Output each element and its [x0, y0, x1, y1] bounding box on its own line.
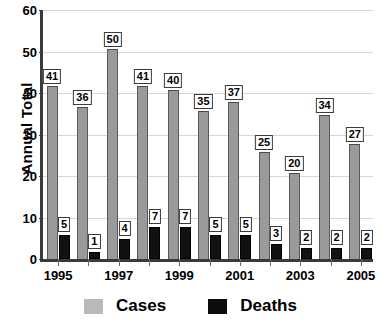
legend-label: Cases [116, 296, 166, 316]
bar-deaths: 5 [59, 235, 70, 259]
bar-deaths: 2 [301, 248, 312, 259]
bar-deaths: 3 [271, 244, 282, 259]
bar-cases: 35 [198, 111, 209, 259]
bar-cases: 27 [349, 144, 360, 259]
x-tick-mark [300, 259, 301, 266]
y-tick-label: 20 [23, 169, 37, 184]
y-tick-label: 40 [23, 86, 37, 101]
bar-cases: 20 [289, 173, 300, 259]
bar-group: 407 [164, 10, 194, 259]
bar-value-label: 41 [43, 69, 61, 84]
bar-value-label: 2 [300, 230, 312, 245]
x-tick-label: 1995 [44, 268, 73, 283]
x-tick-label: 1997 [104, 268, 133, 283]
bar-value-label: 25 [255, 135, 273, 150]
legend-item: Cases [84, 296, 166, 316]
bar-chart: Annual Total 010203040506041519953615041… [0, 0, 381, 333]
bar-group: 272 [346, 10, 376, 259]
x-tick-mark [210, 259, 211, 266]
x-tick-label: 1999 [165, 268, 194, 283]
y-tick-label: 0 [30, 252, 37, 267]
bar-group: 375 [225, 10, 255, 259]
bar-deaths: 5 [210, 235, 221, 259]
bar-deaths: 1 [89, 252, 100, 259]
bar-group: 355 [194, 10, 224, 259]
bar-value-label: 35 [194, 94, 212, 109]
x-tick-label: 2005 [346, 268, 375, 283]
bar-group: 361 [73, 10, 103, 259]
bar-value-label: 40 [164, 73, 182, 88]
bar-deaths: 2 [361, 248, 372, 259]
bar-deaths: 2 [331, 248, 342, 259]
bar-value-label: 50 [104, 32, 122, 47]
x-tick-label: 2001 [225, 268, 254, 283]
bar-deaths: 7 [149, 227, 160, 259]
bar-value-label: 27 [346, 127, 364, 142]
y-tick-label: 60 [23, 3, 37, 18]
cases-swatch [84, 299, 103, 314]
bar-cases: 40 [168, 90, 179, 259]
chart-legend: CasesDeaths [0, 296, 381, 316]
bar-value-label: 34 [315, 98, 333, 113]
bar-value-label: 4 [119, 221, 131, 236]
plot-area: 0102030405060415199536150419974174071999… [40, 10, 373, 262]
bar-deaths: 4 [119, 239, 130, 259]
bar-value-label: 5 [209, 217, 221, 232]
bar-cases: 36 [77, 107, 88, 259]
bar-value-label: 3 [270, 226, 282, 241]
bar-deaths: 7 [180, 227, 191, 259]
x-tick-mark [270, 259, 271, 266]
bar-deaths: 5 [240, 235, 251, 259]
bar-cases: 50 [107, 49, 118, 260]
x-tick-mark [179, 259, 180, 266]
legend-label: Deaths [240, 296, 297, 316]
bar-group: 342 [315, 10, 345, 259]
x-tick-mark [240, 259, 241, 266]
bar-group: 504 [104, 10, 134, 259]
y-tick-mark [39, 259, 43, 260]
bar-value-label: 36 [73, 90, 91, 105]
bar-group: 415 [43, 10, 73, 259]
y-tick-label: 50 [23, 44, 37, 59]
bar-cases: 34 [319, 115, 330, 259]
bar-value-label: 7 [179, 209, 191, 224]
deaths-swatch [208, 299, 227, 314]
legend-item: Deaths [208, 296, 297, 316]
bar-value-label: 1 [88, 234, 100, 249]
bar-value-label: 37 [225, 85, 243, 100]
bar-value-label: 7 [149, 209, 161, 224]
x-tick-mark [149, 259, 150, 266]
bar-value-label: 20 [285, 156, 303, 171]
bar-value-label: 5 [240, 217, 252, 232]
bar-value-label: 2 [331, 230, 343, 245]
bar-group: 253 [255, 10, 285, 259]
bar-value-label: 41 [134, 69, 152, 84]
bar-cases: 37 [228, 102, 239, 259]
bar-value-label: 5 [58, 217, 70, 232]
bar-cases: 41 [137, 86, 148, 259]
x-tick-mark [119, 259, 120, 266]
bar-value-label: 2 [361, 230, 373, 245]
x-tick-mark [331, 259, 332, 266]
bar-group: 417 [134, 10, 164, 259]
x-tick-mark [361, 259, 362, 266]
bar-cases: 25 [259, 152, 270, 259]
bar-group: 202 [285, 10, 315, 259]
bar-cases: 41 [47, 86, 58, 259]
x-tick-mark [88, 259, 89, 266]
y-tick-label: 30 [23, 127, 37, 142]
x-tick-label: 2003 [286, 268, 315, 283]
y-tick-label: 10 [23, 210, 37, 225]
x-tick-mark [58, 259, 59, 266]
